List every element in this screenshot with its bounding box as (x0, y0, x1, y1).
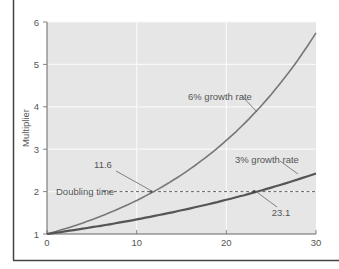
y-axis-label: Multiplier (20, 109, 31, 147)
y-tick-label: 1 (34, 229, 39, 240)
annotation-23-1: 23.1 (272, 207, 291, 218)
doubling-time-label: Doubling time (56, 186, 114, 197)
y-tick-label: 4 (34, 101, 39, 112)
x-tick-label: 20 (221, 237, 232, 248)
y-axis-ticks: 123456 (34, 17, 47, 240)
y-tick-label: 6 (34, 17, 39, 28)
x-tick-label: 30 (311, 237, 322, 248)
x-tick-label: 0 (44, 237, 49, 248)
chart-figure: 123456 0102030 Multiplier Doubling time … (0, 0, 339, 269)
chart-svg: 123456 0102030 Multiplier Doubling time … (0, 0, 339, 269)
y-tick-label: 3 (34, 144, 39, 155)
doubling-point-6-percent (150, 190, 153, 193)
label-3-percent: 3% growth rate (235, 154, 299, 165)
doubling-point-3-percent (253, 190, 256, 193)
plot-area (47, 22, 316, 234)
x-tick-label: 10 (131, 237, 142, 248)
y-tick-label: 5 (34, 59, 39, 70)
annotation-11-6: 11.6 (94, 159, 112, 170)
y-tick-label: 2 (34, 186, 39, 197)
